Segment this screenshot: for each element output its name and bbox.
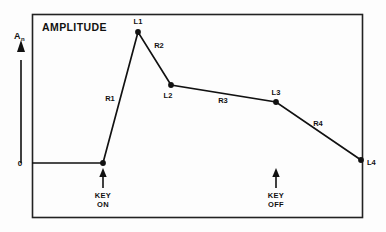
plot-border (33, 15, 363, 218)
plot-title: AMPLITUDE (42, 21, 107, 33)
point-key-on (100, 160, 106, 166)
point-L3 (273, 99, 279, 105)
segment-label-R1: R1 (105, 94, 115, 103)
key-off-arrow-icon (272, 168, 279, 188)
point-label-L1: L1 (134, 17, 143, 26)
envelope-diagram: AMPLITUDE A n 0 L1 L2 L3 L4 R1 R2 R3 R4 (0, 0, 386, 232)
envelope-diagram-screenshot: AMPLITUDE A n 0 L1 L2 L3 L4 R1 R2 R3 R4 (0, 0, 386, 232)
key-off-label-line2: OFF (268, 200, 284, 209)
segment-label-R2: R2 (154, 41, 164, 50)
point-L4 (358, 157, 364, 163)
y-axis-label: A (14, 31, 21, 41)
key-on-arrow-icon (99, 168, 106, 188)
point-L1 (135, 29, 141, 35)
segment-label-R4: R4 (313, 119, 323, 128)
y-axis-arrow (17, 40, 25, 163)
key-off-label-line1: KEY (268, 191, 284, 200)
key-on-label-line2: ON (97, 200, 109, 209)
point-label-L4: L4 (367, 158, 377, 167)
point-label-L2: L2 (164, 91, 173, 100)
point-label-L3: L3 (272, 88, 281, 97)
envelope-curve (32, 32, 361, 163)
key-on-label-line1: KEY (95, 191, 111, 200)
y-axis-label-subscript: n (21, 36, 25, 42)
segment-label-R3: R3 (218, 96, 228, 105)
y-zero-label: 0 (18, 159, 23, 168)
point-L2 (168, 82, 174, 88)
